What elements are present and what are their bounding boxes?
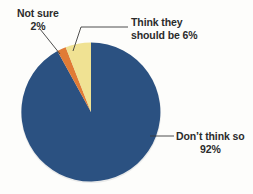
slice-label-dont-value: 92% [176,143,245,156]
slice-label-think-line1: Think they [131,16,183,28]
slice-label-dont-think-so: Don’t think so 92% [176,130,245,155]
slice-label-not-sure-value: 2% [17,20,59,33]
slice-label-not-sure: Not sure 2% [17,7,59,32]
slice-label-think-line2: should be 6% [131,29,197,42]
slice-label-not-sure-line1: Not sure [17,7,59,19]
pie-chart-figure: Not sure 2% Think they should be 6% Don’… [0,0,253,194]
leader-line-not-sure [40,29,60,54]
slice-label-dont-line1: Don’t think so [176,130,245,142]
slice-label-think-they-should-be: Think they should be 6% [131,16,197,41]
